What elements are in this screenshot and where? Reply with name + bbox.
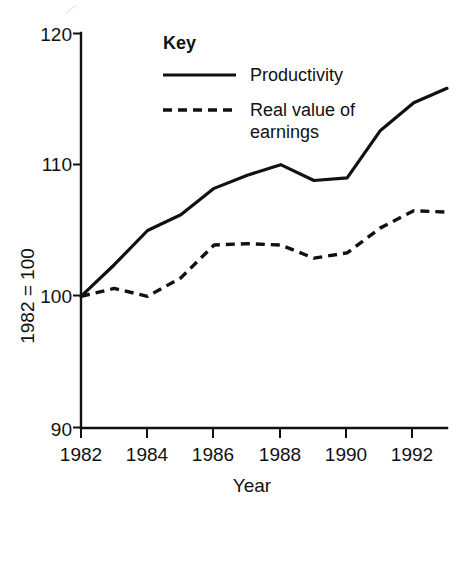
x-axis-title: Year: [233, 475, 272, 496]
legend: Key Productivity Real value of earnings: [163, 33, 356, 142]
legend-label-real-value-of-earnings: Real value of: [250, 100, 356, 120]
x-tick-label-1988: 1988: [259, 444, 301, 465]
legend-label-real-value-of-earnings-line2: earnings: [250, 122, 319, 142]
x-tick-label-1986: 1986: [192, 444, 234, 465]
x-tick-label-1984: 1984: [126, 444, 169, 465]
y-tick-label-120: 120: [40, 24, 72, 45]
y-tick-label-110: 110: [42, 154, 72, 175]
y-tick-label-100: 100: [40, 286, 72, 307]
line-chart-figure: ⁄ 120 110 100 90 1982 1984 1986 1988 199…: [0, 0, 461, 570]
y-axis-title: 1982 = 100: [17, 248, 38, 344]
series-line-real-value-of-earnings: [81, 211, 447, 297]
x-tick-label-1990: 1990: [325, 444, 367, 465]
x-tick-label-1992: 1992: [391, 444, 433, 465]
y-tick-label-90: 90: [51, 419, 72, 440]
legend-label-productivity: Productivity: [250, 65, 343, 85]
legend-title: Key: [163, 33, 196, 53]
x-tick-label-1982: 1982: [60, 444, 102, 465]
chart-svg: 120 110 100 90 1982 1984 1986 1988 1990 …: [0, 0, 461, 570]
